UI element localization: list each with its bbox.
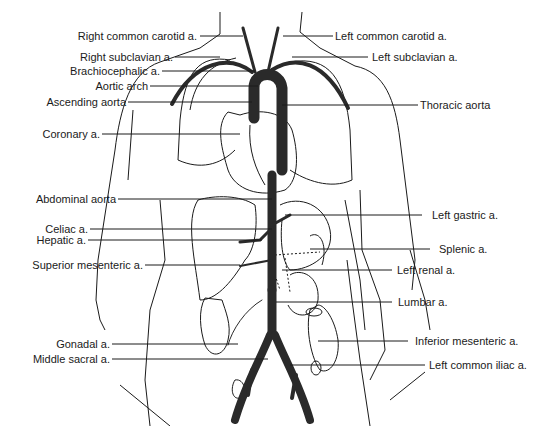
label-left-common-carotid: Left common carotid a. [335, 30, 447, 42]
label-gonadal: Gonadal a. [56, 338, 110, 350]
label-hepatic: Hepatic a. [36, 234, 86, 246]
label-thoracic-aorta: Thoracic aorta [420, 99, 490, 111]
label-inferior-mesenteric: Inferior mesenteric a. [415, 335, 518, 347]
label-brachiocephalic: Brachiocephalic a. [70, 65, 160, 77]
label-coronary: Coronary a. [43, 128, 100, 140]
arteries [172, 28, 348, 420]
label-left-common-iliac: Left common iliac a. [429, 359, 527, 371]
label-aortic-arch: Aortic arch [95, 80, 148, 92]
label-superior-mesenteric: Superior mesenteric a. [32, 259, 143, 271]
label-abdominal-aorta: Abdominal aorta [36, 193, 116, 205]
label-left-gastric: Left gastric a. [432, 209, 498, 221]
label-splenic: Splenic a. [439, 243, 487, 255]
label-left-renal: Left renal a. [397, 264, 455, 276]
label-lumbar: Lumbar a. [398, 296, 448, 308]
label-right-common-carotid: Right common carotid a. [78, 30, 197, 42]
label-left-subclavian: Left subclavian a. [372, 51, 458, 63]
artery-diagram: Right common carotid a. Right subclavian… [0, 0, 536, 426]
label-middle-sacral: Middle sacral a. [33, 353, 110, 365]
label-right-subclavian: Right subclavian a. [80, 51, 173, 63]
label-ascending-aorta: Ascending aorta [47, 96, 127, 108]
